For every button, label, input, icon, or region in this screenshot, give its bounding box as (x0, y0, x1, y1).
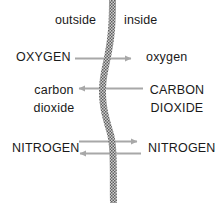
label-nitrogen-outside: NITROGEN (12, 142, 80, 155)
label-carbon-dioxide-inside-line1: CARBON (142, 81, 212, 99)
label-nitrogen-inside: NITROGEN (148, 142, 216, 155)
gas-exchange-diagram: outside inside OXYGEN oxygen carbon diox… (0, 0, 216, 203)
label-carbon-dioxide-outside-line2: dioxide (22, 99, 86, 117)
label-carbon-dioxide-inside: CARBON DIOXIDE (142, 81, 212, 117)
label-oxygen-outside: OXYGEN (16, 51, 71, 64)
label-carbon-dioxide-outside-line1: carbon (22, 81, 86, 99)
label-carbon-dioxide-outside: carbon dioxide (22, 81, 86, 117)
header-label-inside: inside (124, 14, 157, 27)
label-oxygen-inside: oxygen (146, 51, 188, 64)
header-label-outside: outside (55, 14, 96, 27)
label-carbon-dioxide-inside-line2: DIOXIDE (142, 99, 212, 117)
